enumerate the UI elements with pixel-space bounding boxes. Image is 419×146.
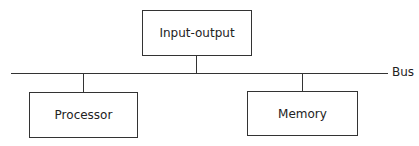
input-output-box: Input-output [142, 10, 252, 56]
io-connector [196, 56, 197, 74]
input-output-label: Input-output [159, 26, 234, 40]
bus-label: Bus [392, 65, 414, 79]
memory-box: Memory [247, 91, 358, 136]
processor-label: Processor [55, 108, 113, 122]
processor-connector [83, 74, 84, 92]
bus-line [11, 73, 388, 74]
processor-box: Processor [29, 92, 138, 138]
memory-connector [302, 74, 303, 91]
memory-label: Memory [278, 107, 327, 121]
